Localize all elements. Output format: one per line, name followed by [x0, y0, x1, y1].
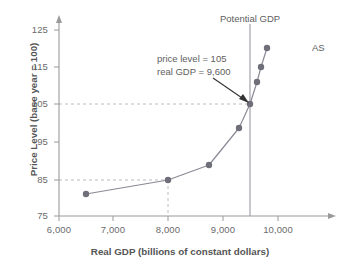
- x-tick-label-10000: 10,000: [253, 224, 303, 235]
- callout-price-level: price level = 105: [157, 52, 231, 65]
- data-point: [254, 79, 260, 85]
- data-point: [206, 162, 212, 168]
- y-axis-arrowhead: [56, 15, 62, 23]
- data-point: [236, 125, 242, 131]
- x-axis-title: Real GDP (billions of constant dollars): [40, 246, 320, 257]
- y-tick-label-75: 75: [18, 210, 48, 221]
- callout-arrow: [213, 78, 249, 103]
- x-tick-label-6000: 6,000: [34, 224, 84, 235]
- equilibrium-callout: price level = 105 real GDP = 9,600: [157, 52, 231, 78]
- x-tick-label-9000: 9,000: [198, 224, 248, 235]
- x-tick-label-7000: 7,000: [88, 224, 138, 235]
- as-curve-chart: 125 115 105 95 85 75 6,000 7,000 8,000 9…: [0, 0, 345, 267]
- x-tick-label-8000: 8,000: [143, 224, 193, 235]
- y-axis-ticks: [54, 30, 59, 216]
- y-axis-title: Price Level (base year = 100): [28, 30, 39, 190]
- data-point: [83, 191, 89, 197]
- data-point: [264, 45, 270, 51]
- x-axis-ticks: [59, 216, 278, 221]
- data-point: [165, 177, 171, 183]
- potential-gdp-label: Potential GDP: [200, 13, 300, 24]
- callout-real-gdp: real GDP = 9,600: [157, 65, 231, 78]
- x-axis-arrowhead: [328, 213, 336, 219]
- data-point: [258, 64, 264, 70]
- as-curve-label: AS: [312, 42, 325, 53]
